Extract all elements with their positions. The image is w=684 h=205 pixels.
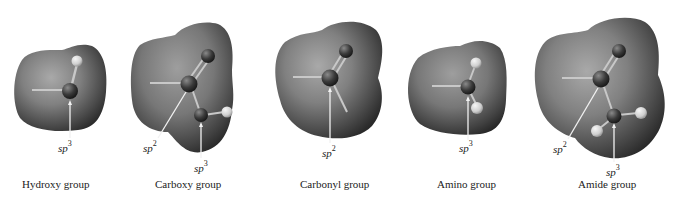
hyb-exponent: 3 [616, 163, 620, 172]
hyb-exponent: 2 [332, 144, 336, 153]
hydrogen-atom [72, 56, 83, 67]
hybridization-label-carboxy-sp3: sp3 [194, 160, 208, 174]
hybridization-label-carboxy-sp2: sp2 [143, 140, 157, 154]
oxygen-atom [339, 44, 353, 58]
group-label-hydroxy: Hydroxy group [22, 178, 90, 190]
amide-surface [535, 18, 665, 158]
hyb-prefix: sp [322, 147, 332, 159]
hybridization-label-carbonyl-sp2: sp2 [322, 145, 336, 159]
hyb-exponent: 3 [204, 159, 208, 168]
amino-surface [408, 41, 507, 135]
hydrogen-atom [471, 58, 482, 69]
hydrogen-atom [471, 102, 483, 114]
hybridization-label-amide-sp3: sp3 [606, 164, 620, 178]
hydroxy-model [14, 45, 106, 138]
hybridization-label-amide-sp2: sp2 [553, 141, 567, 155]
hybridization-label-amino-sp3: sp3 [459, 140, 473, 154]
group-label-amide: Amide group [578, 178, 636, 190]
hyb-exponent: 2 [153, 139, 157, 148]
nitrogen-atom [607, 109, 622, 124]
amino-model [408, 41, 507, 140]
hyb-prefix: sp [606, 166, 616, 178]
oxygen-atom [201, 49, 215, 63]
hyb-prefix: sp [143, 142, 153, 154]
hyb-prefix: sp [459, 142, 469, 154]
hybridization-label-hydroxy-sp3: sp3 [58, 140, 72, 154]
hyb-exponent: 3 [68, 139, 72, 148]
group-label-amino: Amino group [437, 178, 496, 190]
hydroxy-surface [14, 45, 106, 131]
group-label-carbonyl: Carbonyl group [300, 178, 369, 190]
hyb-exponent: 2 [563, 140, 567, 149]
oxygen-atom [62, 83, 78, 99]
carbon-atom [322, 70, 339, 87]
hyb-prefix: sp [58, 142, 68, 154]
carbon-atom [181, 76, 198, 93]
hyb-prefix: sp [194, 162, 204, 174]
functional-groups-figure [0, 0, 684, 205]
hyb-prefix: sp [553, 143, 563, 155]
carbon-atom [593, 71, 610, 88]
hyb-exponent: 3 [469, 139, 473, 148]
hydrogen-atom [591, 125, 603, 137]
oxygen-atom [612, 44, 626, 58]
nitrogen-atom [461, 80, 476, 95]
oxygen-atom [194, 108, 208, 122]
carboxy-model [131, 22, 233, 158]
group-label-carboxy: Carboxy group [155, 178, 221, 190]
carbonyl-model [275, 22, 382, 143]
hydrogen-atom [635, 107, 647, 119]
hydrogen-atom [222, 107, 233, 118]
